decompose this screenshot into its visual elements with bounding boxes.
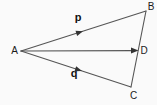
arrowhead-p-icon	[76, 29, 84, 36]
edge-a-b	[21, 11, 146, 51]
vector-label-p: p	[75, 11, 82, 23]
point-label-b: B	[148, 1, 155, 12]
diagram-canvas: A B C D p q	[0, 0, 157, 105]
geometry-diagram: A B C D p q	[0, 0, 157, 105]
point-label-c: C	[130, 90, 137, 101]
point-label-a: A	[11, 45, 18, 56]
vector-label-q: q	[71, 67, 78, 79]
point-label-d: D	[140, 45, 147, 56]
